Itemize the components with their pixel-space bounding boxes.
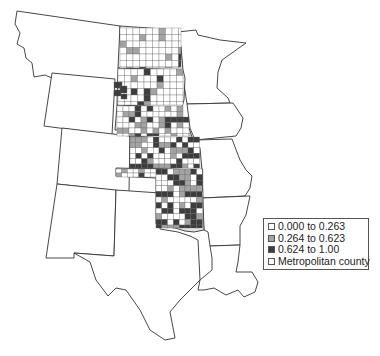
county bbox=[171, 128, 177, 134]
county bbox=[118, 76, 125, 83]
county bbox=[162, 203, 168, 209]
county bbox=[202, 191, 203, 197]
county bbox=[138, 69, 145, 76]
county bbox=[182, 137, 188, 142]
county bbox=[153, 153, 159, 158]
county bbox=[176, 148, 182, 153]
county bbox=[117, 112, 123, 118]
county bbox=[168, 203, 174, 209]
county bbox=[139, 169, 145, 173]
county bbox=[194, 142, 200, 147]
county bbox=[159, 117, 165, 123]
county bbox=[153, 35, 160, 42]
county bbox=[139, 173, 145, 177]
county bbox=[185, 197, 191, 203]
county bbox=[133, 54, 140, 61]
county bbox=[164, 82, 171, 89]
county bbox=[168, 180, 174, 186]
county bbox=[179, 61, 182, 68]
county bbox=[172, 41, 179, 48]
county bbox=[125, 102, 132, 106]
county bbox=[170, 82, 177, 89]
legend-label: Metropolitan county bbox=[278, 256, 370, 267]
county bbox=[123, 106, 129, 112]
county bbox=[176, 137, 182, 142]
county bbox=[120, 67, 127, 68]
county bbox=[162, 186, 168, 192]
county bbox=[173, 203, 179, 209]
county bbox=[191, 203, 197, 209]
county bbox=[136, 142, 142, 147]
county bbox=[191, 175, 197, 181]
county bbox=[153, 164, 159, 168]
county bbox=[197, 203, 203, 209]
county bbox=[176, 153, 182, 158]
county bbox=[144, 82, 151, 89]
county bbox=[114, 90, 121, 96]
county bbox=[188, 159, 194, 164]
county bbox=[179, 169, 185, 175]
county bbox=[146, 28, 153, 35]
county bbox=[140, 61, 147, 68]
county bbox=[179, 225, 185, 228]
county bbox=[146, 67, 153, 68]
county bbox=[142, 142, 148, 147]
county bbox=[156, 219, 162, 225]
county bbox=[197, 214, 203, 220]
county bbox=[170, 69, 177, 76]
county bbox=[138, 102, 145, 106]
county bbox=[182, 153, 188, 158]
county bbox=[150, 169, 156, 173]
county bbox=[179, 214, 185, 220]
county bbox=[144, 102, 151, 106]
legend-label: 0.000 to 0.263 bbox=[278, 221, 345, 232]
county bbox=[133, 169, 139, 173]
county bbox=[165, 164, 171, 168]
state-missouri bbox=[195, 139, 252, 198]
county bbox=[121, 94, 127, 99]
county bbox=[151, 95, 158, 102]
county bbox=[135, 106, 141, 112]
county bbox=[159, 148, 165, 153]
county bbox=[147, 142, 153, 147]
county bbox=[146, 61, 153, 68]
county bbox=[153, 41, 160, 48]
county bbox=[120, 35, 127, 42]
county bbox=[179, 28, 182, 35]
county bbox=[157, 95, 164, 102]
county bbox=[182, 164, 188, 168]
county bbox=[135, 134, 141, 137]
county bbox=[120, 41, 127, 48]
county bbox=[147, 106, 153, 112]
county bbox=[159, 106, 165, 112]
county bbox=[157, 82, 164, 89]
county bbox=[150, 173, 156, 177]
county bbox=[156, 208, 162, 214]
county bbox=[179, 175, 185, 181]
county bbox=[151, 102, 158, 106]
county bbox=[144, 89, 151, 96]
county bbox=[153, 112, 159, 118]
county bbox=[173, 208, 179, 214]
county bbox=[168, 197, 174, 203]
county bbox=[170, 102, 177, 106]
county bbox=[188, 153, 194, 158]
county bbox=[177, 134, 183, 137]
county bbox=[191, 186, 197, 192]
county bbox=[159, 128, 165, 134]
county bbox=[153, 61, 160, 68]
county bbox=[179, 180, 185, 186]
county bbox=[138, 95, 145, 102]
county bbox=[159, 28, 166, 35]
county bbox=[183, 134, 189, 137]
county bbox=[153, 106, 159, 112]
county bbox=[127, 61, 134, 68]
county bbox=[162, 197, 168, 203]
county bbox=[165, 112, 171, 118]
county bbox=[182, 148, 188, 153]
county bbox=[191, 225, 197, 228]
county bbox=[172, 54, 179, 61]
county bbox=[189, 134, 190, 137]
county bbox=[162, 169, 168, 175]
county bbox=[179, 219, 185, 225]
